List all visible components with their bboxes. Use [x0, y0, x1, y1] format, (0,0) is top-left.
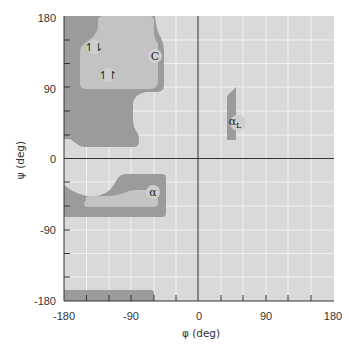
y-tick-label: 180: [38, 12, 56, 24]
parallel-beta-label: ↿↾: [99, 69, 117, 82]
ramachandran-plot: ↿⇂ ↿↾ C α αL 180 90 0 -90 -180 -180: [0, 0, 349, 348]
y-axis-title: ψ (deg): [14, 141, 26, 179]
x-axis-title: φ (deg): [182, 327, 220, 339]
alpha-l-region: [227, 87, 236, 140]
x-tick-label: 0: [196, 310, 202, 322]
y-tick-label: 90: [44, 83, 56, 95]
collagen-label: C: [151, 50, 159, 63]
x-tick-label: -90: [123, 310, 139, 322]
x-tick-label: 180: [324, 310, 342, 322]
antiparallel-beta-label: ↿⇂: [85, 41, 103, 54]
y-tick-label: 0: [50, 153, 56, 165]
alpha-helix-label: α: [149, 186, 157, 199]
x-tick-label: 90: [260, 310, 272, 322]
y-tick-label: -90: [40, 224, 56, 236]
x-tick-label: -180: [53, 310, 75, 322]
y-tick-label: -180: [34, 295, 56, 307]
